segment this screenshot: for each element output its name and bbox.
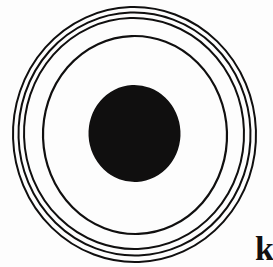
corner-letter-k: k [255, 232, 273, 266]
concentric-rings-drawing [0, 0, 273, 267]
figure-canvas: k [0, 0, 273, 267]
